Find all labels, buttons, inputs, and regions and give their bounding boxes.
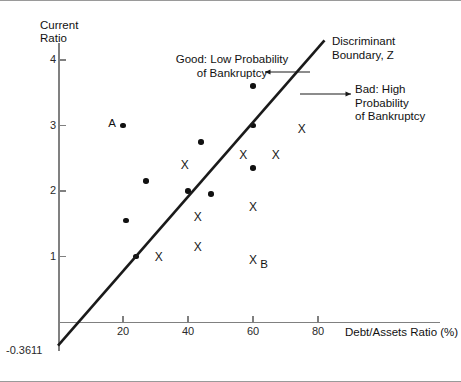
- x-tick-label-80: 80: [298, 326, 338, 337]
- y-tick-label-4: 4: [34, 54, 56, 65]
- data-point-label-A: A: [108, 118, 116, 130]
- x-axis-line: [58, 322, 440, 323]
- data-point-x: X: [247, 254, 259, 266]
- data-point-dot: [250, 165, 256, 171]
- y-tick-3: [59, 125, 66, 126]
- data-point-dot: [250, 83, 256, 89]
- discriminant-boundary-stroke: [58, 40, 325, 345]
- data-point-x: X: [247, 201, 259, 213]
- x-tick-label-60: 60: [233, 326, 273, 337]
- y-tick-label-wrap: 2: [30, 185, 56, 196]
- data-point-dot: [123, 218, 129, 224]
- annotation-boundary-label: Discriminant Boundary, Z: [332, 35, 432, 62]
- y-tick-label-wrap: 3: [30, 120, 56, 131]
- data-point-dot: [133, 254, 139, 260]
- y-axis-title: Current Ratio: [40, 19, 78, 45]
- data-point-x: X: [192, 211, 204, 223]
- data-point-x: X: [296, 123, 308, 135]
- x-tick-60: [252, 316, 253, 323]
- data-point-dot: [120, 123, 126, 129]
- data-point-dot: [208, 191, 214, 197]
- discriminant-analysis-chart: Current Ratio Debt/Assets Ratio (%) -0.3…: [0, 0, 461, 382]
- y-axis-line: [58, 43, 60, 351]
- data-point-dot: [198, 139, 204, 145]
- arrow-to-bad-region: [300, 92, 351, 97]
- y-tick-label-2: 2: [34, 185, 56, 196]
- y-tick-label-wrap: 4: [30, 54, 56, 65]
- plot-area: Current Ratio Debt/Assets Ratio (%) -0.3…: [0, 1, 461, 381]
- x-tick-80: [317, 316, 318, 323]
- x-tick-label-40: 40: [168, 326, 208, 337]
- x-tick-20: [122, 316, 123, 323]
- data-point-label-B: B: [260, 259, 268, 271]
- data-point-x: X: [270, 149, 282, 161]
- data-point-dot: [250, 123, 256, 129]
- data-point-x: X: [192, 241, 204, 253]
- y-tick-label-wrap: 1: [30, 251, 56, 262]
- data-point-x: X: [153, 251, 165, 263]
- data-point-dot: [143, 178, 149, 184]
- x-axis-title: Debt/Assets Ratio (%): [345, 326, 458, 339]
- data-point-x: X: [237, 149, 249, 161]
- y-tick-1: [59, 256, 66, 257]
- y-tick-4: [59, 59, 66, 60]
- annotation-bad-region: Bad: High Probability of Bankruptcy: [355, 83, 459, 124]
- annotation-good-region: Good: Low Probability of Bankruptcy: [166, 53, 298, 80]
- y-tick-2: [59, 190, 66, 191]
- data-point-x: X: [179, 159, 191, 171]
- data-point-dot: [185, 188, 191, 194]
- y-tick-label-3: 3: [34, 120, 56, 131]
- x-tick-40: [187, 316, 188, 323]
- y-intercept-label: -0.3611: [6, 345, 43, 356]
- y-tick-label-1: 1: [34, 251, 56, 262]
- x-tick-label-20: 20: [103, 326, 143, 337]
